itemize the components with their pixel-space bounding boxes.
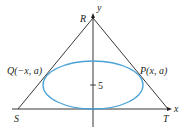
vertex-r-label: R — [79, 13, 86, 24]
triangle-left-side — [18, 18, 93, 109]
x-axis-label: x — [173, 103, 179, 114]
vertex-s-label: S — [14, 113, 19, 124]
triangle-right-side — [93, 18, 168, 109]
point-q-label: Q(−x, a) — [7, 65, 43, 77]
y-axis-arrow-icon — [91, 13, 95, 18]
y-axis-label: y — [96, 2, 102, 13]
triangle-ellipse-diagram: 5 y x R S T Q(−x, a) P(x, a) — [0, 0, 187, 131]
point-p-label: P(x, a) — [139, 65, 168, 77]
y-tick-label: 5 — [98, 80, 103, 91]
vertex-t-label: T — [163, 113, 170, 124]
